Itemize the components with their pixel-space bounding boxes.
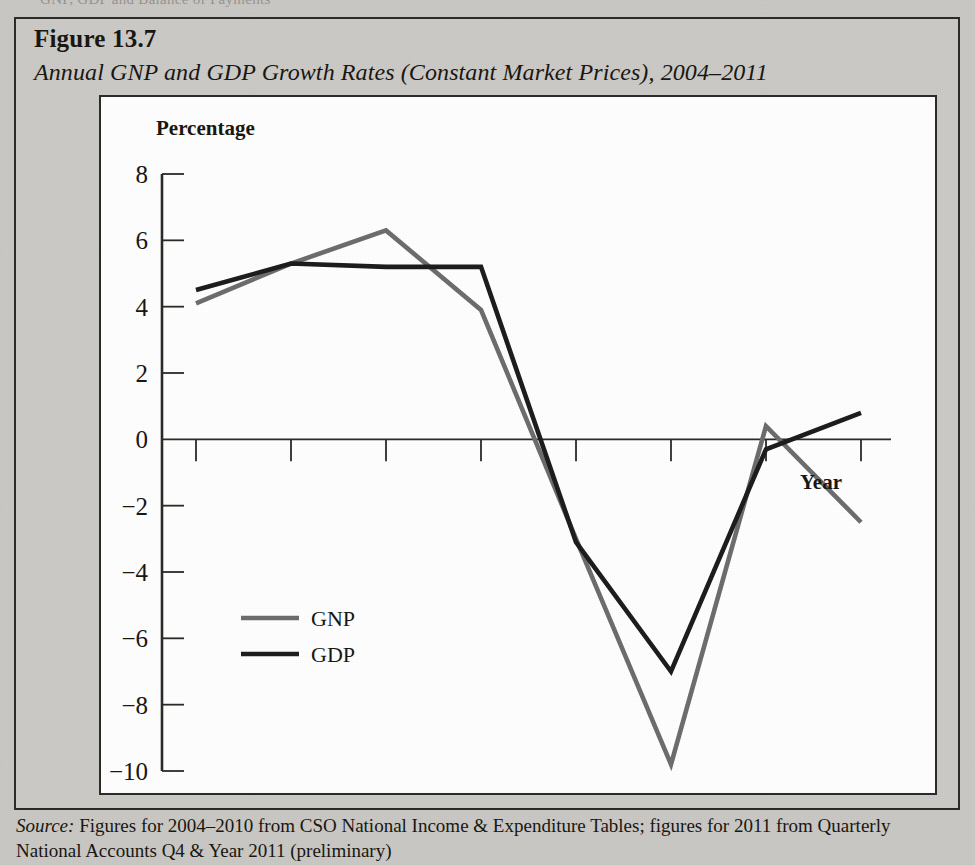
source-label: Source:: [16, 815, 74, 836]
y-axis-tick-label: −6: [121, 625, 148, 652]
legend-label-gdp: GDP: [311, 642, 355, 667]
label-layer: 86420−2−4−6−8−10200420052006200720082009…: [109, 116, 886, 793]
y-axis-tick-label: −4: [121, 559, 148, 586]
axis-layer: [162, 174, 891, 771]
figure-caption: Annual GNP and GDP Growth Rates (Constan…: [34, 59, 768, 86]
y-axis-tick-label: −10: [109, 758, 148, 785]
y-axis-tick-label: 2: [136, 360, 149, 387]
plot-panel: 86420−2−4−6−8−10200420052006200720082009…: [99, 95, 937, 795]
source-note: Source: Figures for 2004–2010 from CSO N…: [16, 813, 956, 863]
series-line-gdp: [196, 264, 861, 672]
y-axis-tick-label: 6: [136, 227, 149, 254]
y-axis-tick-label: −2: [121, 493, 148, 520]
y-axis-tick-label: 8: [136, 161, 149, 188]
chart-legend: GNPGDP: [241, 606, 355, 667]
legend-label-gnp: GNP: [311, 606, 355, 631]
figure-number: Figure 13.7: [34, 25, 157, 53]
y-axis-tick-label: 0: [136, 426, 149, 453]
series-layer: [196, 230, 861, 764]
y-axis-tick-label: 4: [136, 294, 149, 321]
line-chart: 86420−2−4−6−8−10200420052006200720082009…: [101, 97, 935, 793]
series-line-gnp: [196, 230, 861, 764]
figure-box: Figure 13.7 Annual GNP and GDP Growth Ra…: [14, 17, 960, 810]
source-text: Figures for 2004–2010 from CSO National …: [16, 815, 890, 861]
page-bleed-strip: GNP, GDP and Balance of Payments: [0, 0, 975, 16]
page-bleed-text: GNP, GDP and Balance of Payments: [40, 0, 271, 8]
y-axis-title: Percentage: [156, 116, 255, 140]
figure-page: GNP, GDP and Balance of Payments Figure …: [0, 0, 975, 865]
x-axis-title: Year: [800, 470, 842, 494]
y-axis-tick-label: −8: [121, 692, 148, 719]
